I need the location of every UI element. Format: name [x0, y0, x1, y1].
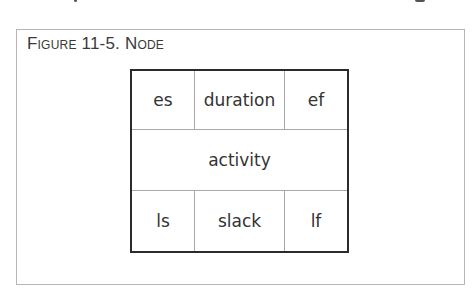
- node-cell-late-finish: lf: [285, 191, 347, 251]
- node-cell-slack: slack: [195, 191, 285, 251]
- clipped-text-fragment: [415, 0, 425, 2]
- node-cell-duration: duration: [195, 71, 285, 130]
- node-cell-early-finish: ef: [285, 71, 347, 130]
- node-cell-early-start: es: [132, 71, 195, 130]
- figure-frame: Figure 11-5. Node es duration ef activit…: [16, 29, 465, 285]
- node-cell-late-start: ls: [132, 191, 195, 251]
- activity-node-diagram: es duration ef activity ls slack lf: [130, 69, 349, 253]
- clipped-text-fragment: [74, 0, 77, 2]
- node-cell-activity: activity: [132, 130, 347, 191]
- figure-caption: Figure 11-5. Node: [27, 34, 164, 54]
